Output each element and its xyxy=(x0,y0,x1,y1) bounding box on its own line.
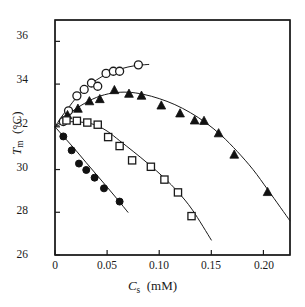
ytick-label-26: 26 xyxy=(4,248,28,260)
data-point-marker xyxy=(100,185,107,192)
xtick-label-0.05: 0.05 xyxy=(87,259,127,271)
data-point-marker xyxy=(91,174,98,181)
data-point-marker xyxy=(85,97,94,105)
ytick-label-36: 36 xyxy=(4,29,28,41)
data-point-marker xyxy=(174,189,181,196)
data-point-marker xyxy=(161,176,168,183)
x-axis-symbol: C xyxy=(128,278,137,293)
data-point-marker xyxy=(176,109,185,117)
data-point-marker xyxy=(263,187,272,195)
x-axis-subscript: s xyxy=(137,285,141,295)
data-point-marker xyxy=(105,133,112,140)
data-point-marker xyxy=(68,147,75,154)
y-axis-subscript: m xyxy=(15,141,25,148)
data-point-marker xyxy=(188,213,195,220)
xtick-label-0.15: 0.15 xyxy=(191,259,231,271)
data-point-marker xyxy=(75,160,82,167)
data-point-marker xyxy=(94,82,102,90)
data-point-marker xyxy=(60,133,67,140)
data-point-marker xyxy=(83,166,90,173)
data-point-marker xyxy=(137,91,146,99)
data-point-marker xyxy=(63,117,70,124)
axis-frame-overlay xyxy=(55,20,290,255)
series-open-squares xyxy=(55,122,211,240)
x-axis-unit: (mM) xyxy=(147,278,177,293)
data-point-marker xyxy=(147,163,154,170)
data-point-marker xyxy=(200,116,209,124)
data-point-marker xyxy=(116,67,124,75)
chart-figure: 36 34 32 30 28 26 0 0.05 0.10 0.15 0.20 … xyxy=(0,0,305,307)
axis-frame xyxy=(55,20,290,255)
y-axis-symbol: T xyxy=(9,148,24,155)
x-axis-title: Cs (mM) xyxy=(0,278,305,295)
y-axis-title: Tm (°C) xyxy=(9,78,26,188)
xtick-label-0.10: 0.10 xyxy=(139,259,179,271)
data-point-marker xyxy=(116,198,123,205)
data-point-marker xyxy=(84,119,91,126)
data-point-marker xyxy=(116,142,123,149)
data-point-marker xyxy=(73,117,80,124)
data-point-marker xyxy=(157,101,166,109)
data-point-marker xyxy=(73,92,81,100)
xtick-label-0.20: 0.20 xyxy=(244,259,284,271)
y-axis-unit: (°C) xyxy=(9,112,24,135)
fit-curve-filled-triangles xyxy=(55,92,290,221)
ytick-label-28: 28 xyxy=(4,204,28,216)
data-point-marker xyxy=(125,89,134,97)
data-point-marker xyxy=(110,85,119,93)
axis-ticks xyxy=(55,41,263,255)
fit-curve-open-squares xyxy=(55,122,211,240)
data-point-marker xyxy=(129,157,136,164)
data-point-marker xyxy=(80,85,88,93)
data-point-marker xyxy=(94,121,101,128)
xtick-label-0: 0 xyxy=(35,259,75,271)
data-point-marker xyxy=(134,61,142,69)
series-filled-triangles xyxy=(55,92,290,221)
